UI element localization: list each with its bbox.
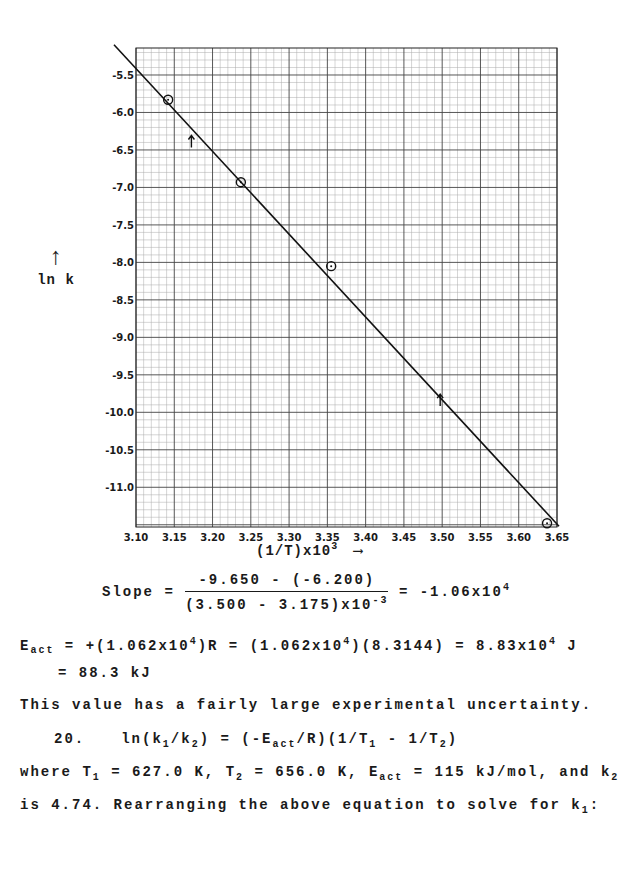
svg-text:3.60: 3.60 (506, 532, 531, 543)
slope-fraction: -9.650 - (-6.200) (3.500 - 3.175)x10-3 (185, 572, 388, 613)
svg-text:-11.0: -11.0 (105, 482, 134, 493)
activation-energy-kj: = 88.3 kJ (58, 665, 152, 681)
problem-number: 20. (54, 731, 85, 747)
svg-text:-6.0: -6.0 (112, 107, 134, 118)
svg-text:-7.5: -7.5 (112, 220, 134, 231)
svg-text:3.55: 3.55 (468, 532, 493, 543)
svg-text:-8.0: -8.0 (112, 257, 134, 268)
slope-equation: Slope = -9.650 - (-6.200) (3.500 - 3.175… (102, 572, 511, 613)
uncertainty-note: This value has a fairly large experiment… (20, 697, 592, 713)
svg-text:3.50: 3.50 (430, 532, 455, 543)
y-tick-labels: -5.5-6.0-6.5-7.0-7.5-8.0-8.5-9.0-9.5-10.… (105, 70, 134, 493)
best-fit-line (114, 45, 559, 527)
svg-text:-10.0: -10.0 (105, 407, 134, 418)
svg-text:3.15: 3.15 (162, 532, 187, 543)
data-points (164, 95, 552, 528)
up-arrow-icon: ↑ (36, 248, 76, 268)
y-axis-title: ↑ ln k (36, 248, 76, 288)
given-values: where T1 = 627.0 K, T2 = 656.0 K, Eact =… (20, 764, 619, 783)
x-axis-title: (1/T)x103 ⟶ (256, 541, 363, 559)
slope-point-arrows (188, 135, 443, 406)
svg-text:-9.5: -9.5 (112, 370, 134, 381)
problem-20-equation: 20.ln(k1/k2) = (-Eact/R)(1/T1 - 1/T2) (54, 731, 458, 750)
svg-text:-9.0: -9.0 (112, 332, 134, 343)
svg-text:-7.0: -7.0 (112, 182, 134, 193)
svg-text:-8.5: -8.5 (112, 295, 134, 306)
svg-text:3.65: 3.65 (545, 532, 570, 543)
right-arrow-icon: ⟶ (354, 543, 363, 559)
svg-text:3.10: 3.10 (124, 532, 149, 543)
svg-text:-5.5: -5.5 (112, 70, 134, 81)
svg-text:3.20: 3.20 (200, 532, 225, 543)
svg-text:-6.5: -6.5 (112, 145, 134, 156)
svg-text:-10.5: -10.5 (105, 445, 134, 456)
svg-text:3.45: 3.45 (392, 532, 417, 543)
arrhenius-plot: 3.103.153.203.253.303.353.403.453.503.55… (0, 0, 592, 560)
rearranging-note: is 4.74. Rearranging the above equation … (20, 797, 600, 816)
activation-energy-equation: Eact = +(1.062x104)R = (1.062x104)(8.314… (20, 636, 578, 656)
